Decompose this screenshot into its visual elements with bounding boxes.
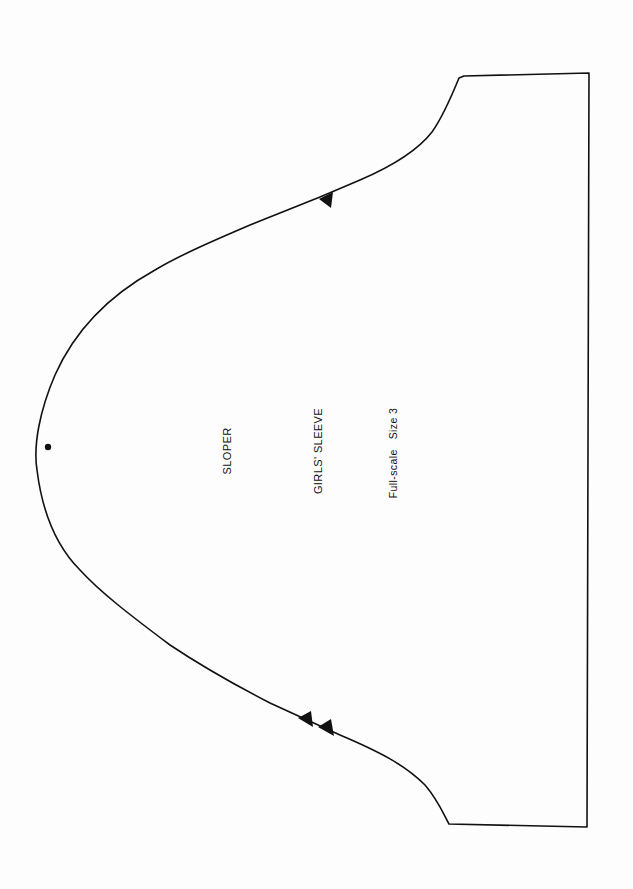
pattern-page: SLOPER GIRLS' SLEEVE Full-scale Size 3 bbox=[0, 0, 633, 889]
scale-size-label: Full-scale Size 3 bbox=[387, 408, 399, 498]
pattern-title: GIRLS' SLEEVE bbox=[312, 408, 324, 494]
back-notch-icon-2 bbox=[318, 719, 334, 736]
shoulder-dot-icon bbox=[45, 444, 51, 450]
back-notch-icon-1 bbox=[298, 711, 313, 727]
sloper-label: SLOPER bbox=[221, 427, 233, 474]
